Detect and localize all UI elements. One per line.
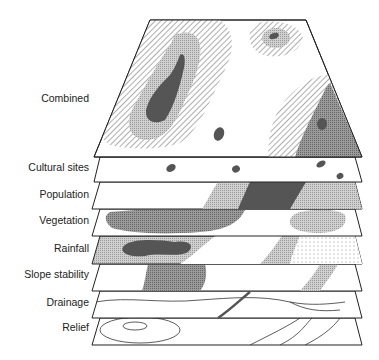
layer-rainfall bbox=[92, 236, 362, 264]
label-population: Population bbox=[39, 188, 89, 200]
label-cultural-sites: Cultural sites bbox=[28, 161, 89, 173]
layer-vegetation bbox=[92, 209, 362, 236]
layer-relief bbox=[92, 317, 362, 345]
layer-population bbox=[92, 182, 362, 209]
layer-slope-stability bbox=[92, 264, 362, 291]
layer-combined bbox=[94, 20, 362, 157]
layer-cultural-sites bbox=[94, 157, 362, 182]
label-relief: Relief bbox=[62, 321, 89, 333]
label-rainfall: Rainfall bbox=[54, 242, 89, 254]
label-vegetation: Vegetation bbox=[39, 214, 89, 226]
label-combined: Combined bbox=[41, 92, 89, 104]
layer-drainage bbox=[92, 291, 362, 318]
label-slope-stability: Slope stability bbox=[24, 268, 89, 280]
label-drainage: Drainage bbox=[46, 296, 89, 308]
